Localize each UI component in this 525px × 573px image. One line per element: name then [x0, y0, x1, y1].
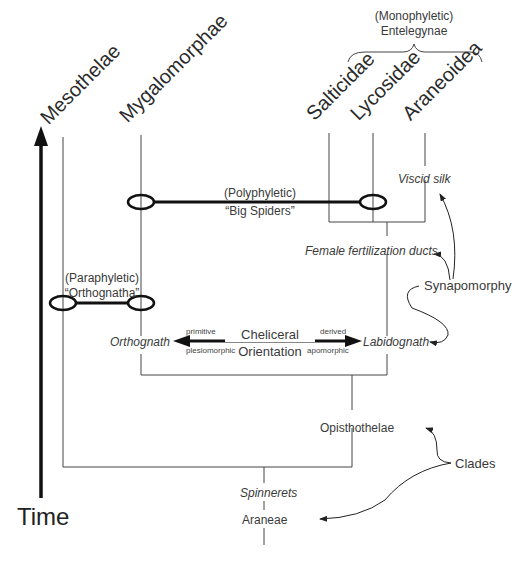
character-viscid-silk: Viscid silk: [398, 172, 450, 186]
entelegynae-qualifier: (Monophyletic): [364, 9, 464, 23]
axis-left-top: primitive: [186, 327, 216, 336]
character-spinnerets: Spinnerets: [240, 486, 297, 500]
character-labidognath: Labidognath: [363, 335, 429, 349]
axis-right-top: derived: [320, 327, 346, 336]
time-axis-label: Time: [17, 503, 69, 531]
character-female-ducts: Female fertilization ducts: [305, 244, 438, 258]
orthognatha-name: “Orthognatha”: [52, 286, 152, 300]
character-orthognath: Orthognath: [110, 335, 170, 349]
time-arrow-icon: [34, 126, 48, 498]
orthognatha-qualifier: (Paraphyletic): [52, 271, 152, 285]
big-spiders-name: “Big Spiders”: [200, 204, 320, 218]
entelegynae-name: Entelegynae: [364, 24, 464, 38]
synapomorphy-arrows: [407, 194, 454, 343]
big-spiders-qualifier: (Polyphyletic): [200, 186, 320, 200]
clade-araneae: Araneae: [242, 513, 287, 527]
axis-title-line1: Cheliceral: [225, 327, 315, 342]
clade-opisthothelae: Opisthothelae: [320, 421, 394, 435]
annotation-clades: Clades: [455, 456, 495, 471]
axis-title-line2: Orientation: [225, 344, 315, 359]
annotation-synapomorphy: Synapomorphy: [424, 278, 511, 293]
clades-arrows: [320, 428, 451, 519]
